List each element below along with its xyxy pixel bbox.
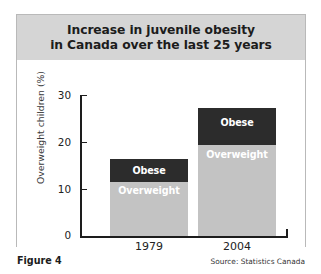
chart-title-line-2: in Canada over the last 25 years — [50, 38, 272, 53]
bar-1979-obese-label: Obese — [110, 165, 188, 176]
y-tick-10 — [81, 189, 87, 190]
source-note: Source: Statistics Canada — [211, 257, 305, 266]
bar-2004-segment-obese[interactable]: Obese — [198, 108, 276, 145]
x-axis-label-2004: 2004 — [198, 240, 276, 253]
figure-container: Increase in juvenile obesity in Canada o… — [0, 0, 321, 274]
y-tick-label-0: 0 — [43, 229, 71, 241]
figure-caption: Figure 4 — [17, 255, 62, 266]
bar-2004-overweight-label: Overweight — [198, 149, 276, 160]
bar-2004[interactable]: Overweight Obese — [198, 108, 276, 236]
y-tick-20 — [81, 142, 87, 143]
x-axis-end-tick — [286, 229, 288, 237]
y-tick-label-20: 20 — [43, 136, 71, 148]
chart-title-band: Increase in juvenile obesity in Canada o… — [17, 15, 305, 60]
bar-1979-overweight-label: Overweight — [110, 185, 188, 196]
plot-area: Overweight children (%) 30 20 10 0 Overw… — [17, 60, 305, 248]
chart-panel: Increase in juvenile obesity in Canada o… — [16, 14, 306, 247]
x-axis-line — [80, 236, 288, 238]
bar-1979[interactable]: Overweight Obese — [110, 158, 188, 236]
y-tick-label-10: 10 — [43, 183, 71, 195]
bar-1979-segment-overweight[interactable]: Overweight — [110, 182, 188, 237]
bar-2004-obese-label: Obese — [198, 117, 276, 128]
y-axis-title: Overweight children (%) — [35, 58, 46, 198]
chart-title-line-1: Increase in juvenile obesity — [67, 23, 255, 38]
x-axis-label-1979: 1979 — [110, 240, 188, 253]
y-tick-label-30: 30 — [43, 89, 71, 101]
y-axis-line — [80, 95, 82, 237]
bar-1979-segment-obese[interactable]: Obese — [110, 159, 188, 182]
y-tick-30 — [81, 95, 87, 96]
bar-2004-segment-overweight[interactable]: Overweight — [198, 145, 276, 237]
